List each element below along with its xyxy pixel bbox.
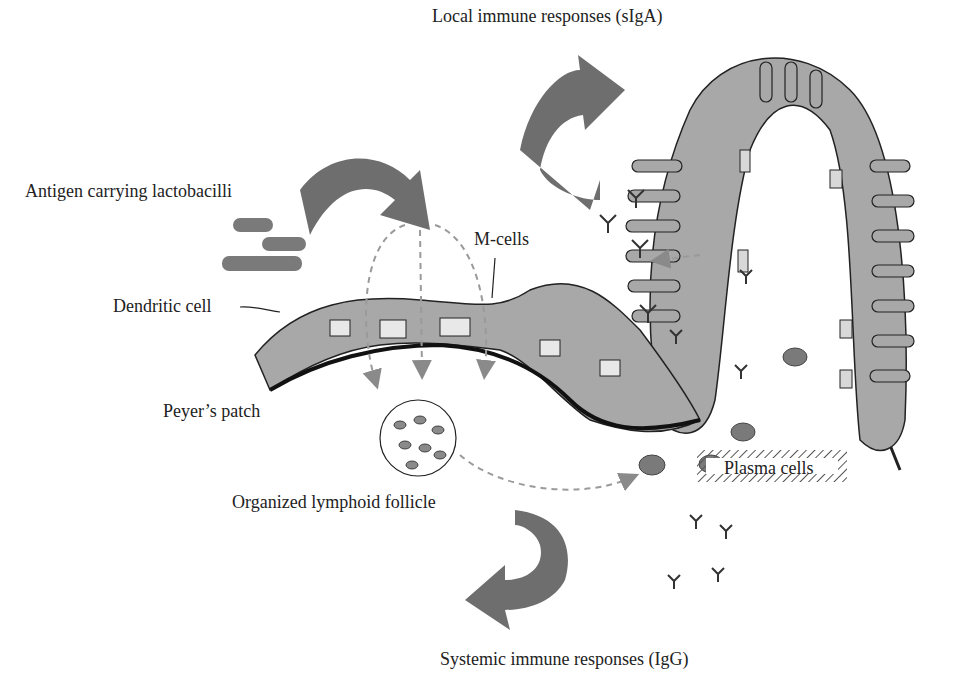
antigen-uptake-arrow [300,159,430,235]
lactobacilli [222,218,306,271]
antigen-lactobacilli-label: Antigen carrying lactobacilli [25,181,232,202]
systemic-response-arrow [465,510,568,630]
peyers-patch-label: Peyer’s patch [163,401,260,422]
systemic-immune-label: Systemic immune responses (IgG) [440,649,688,670]
local-response-arrow [520,55,625,210]
plasma-cells-label: Plasma cells [724,458,813,479]
gut-immune-diagram [0,0,964,683]
m-cells-label: M-cells [474,229,529,250]
lymphoid-follicle [380,400,456,476]
dendritic-cell-label: Dendritic cell [113,296,211,317]
lymphoid-follicle-label: Organized lymphoid follicle [232,492,436,513]
local-immune-label: Local immune responses (sIgA) [432,6,662,27]
